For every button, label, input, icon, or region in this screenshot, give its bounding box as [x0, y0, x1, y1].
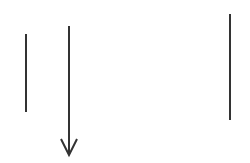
diagram-canvas — [0, 0, 250, 163]
down-arrow-icon — [61, 26, 77, 155]
